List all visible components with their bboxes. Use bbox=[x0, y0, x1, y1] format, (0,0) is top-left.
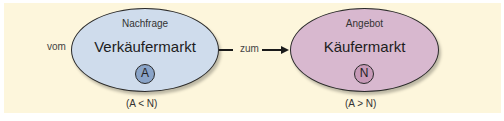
connector-line bbox=[219, 49, 233, 51]
node-title: Verkäufermarkt bbox=[72, 38, 218, 55]
badge-circle: N bbox=[354, 64, 374, 84]
from-label: vom bbox=[47, 41, 66, 52]
condition-label: (A < N) bbox=[126, 98, 157, 109]
condition-label: (A > N) bbox=[345, 98, 376, 109]
arrow-right-icon bbox=[281, 46, 289, 54]
sellers-market-node: Nachfrage Verkäufermarkt A bbox=[71, 8, 219, 92]
arrow-shaft bbox=[262, 49, 282, 51]
node-top-label: Angebot bbox=[291, 18, 438, 29]
node-title: Käufermarkt bbox=[291, 38, 438, 55]
to-label: zum bbox=[240, 43, 259, 54]
badge-circle: A bbox=[135, 64, 155, 84]
buyers-market-node: Angebot Käufermarkt N bbox=[290, 8, 439, 92]
node-top-label: Nachfrage bbox=[72, 18, 218, 29]
